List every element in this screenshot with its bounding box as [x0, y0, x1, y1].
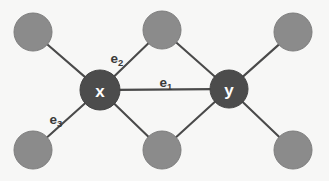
graph-node-n2 — [143, 11, 181, 49]
graph-edge-x-n5 — [112, 102, 150, 139]
graph-node-n3 — [274, 13, 312, 51]
graph-edge-y-n3 — [241, 43, 281, 79]
graph-edge-x-n1 — [45, 42, 87, 78]
node-label-x: x — [95, 82, 105, 101]
node-label-y: y — [224, 81, 234, 100]
edge-label-e2: e2 — [111, 51, 124, 68]
edge-label-e1: e1 — [160, 75, 174, 92]
graph-diagram: xy e2e1e3 — [0, 0, 329, 181]
graph-canvas: xy e2e1e3 — [0, 0, 329, 181]
graph-node-n5 — [143, 131, 181, 169]
graph-node-n6 — [274, 131, 312, 169]
edge-label-e3: e3 — [50, 112, 63, 129]
graph-edge-y-n6 — [241, 100, 282, 139]
graph-edge-y-n2 — [174, 41, 217, 79]
graph-node-n1 — [14, 13, 52, 51]
graph-node-n4 — [14, 131, 52, 169]
graph-edge-y-n5 — [174, 100, 217, 139]
